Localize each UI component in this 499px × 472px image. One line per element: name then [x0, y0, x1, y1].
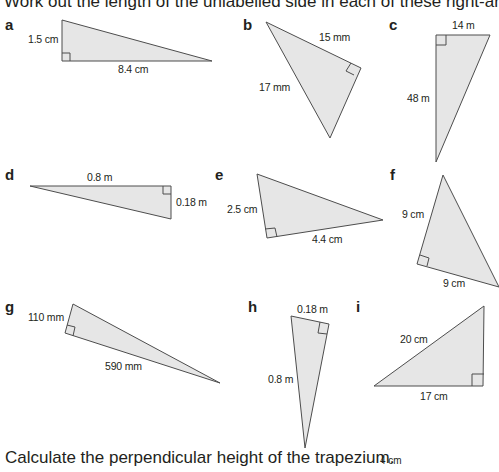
- trapezium-question: Calculate the perpendicular height of th…: [5, 448, 394, 468]
- part-label-d: d: [5, 166, 14, 183]
- side-label-e-2: 4.4 cm: [312, 233, 342, 245]
- side-label-b-1: 15 mm: [319, 31, 350, 43]
- triangle-g-shape: [65, 304, 220, 383]
- triangle-a-shape: [62, 20, 212, 61]
- side-label-d-2: 0.18 m: [176, 196, 207, 208]
- side-label-h-1: 0.18 m: [297, 303, 328, 315]
- trapezium-dimension-label: 4 cm: [380, 455, 402, 466]
- triangle-d-shape: [30, 186, 171, 219]
- part-label-h: h: [248, 298, 257, 315]
- part-label-g: g: [5, 298, 14, 315]
- triangle-h-shape: [291, 316, 329, 448]
- side-label-c-2: 48 m: [407, 92, 430, 104]
- side-label-a-2: 8.4 cm: [118, 63, 148, 75]
- part-label-c: c: [389, 16, 397, 33]
- side-label-b-2: 17 mm: [259, 81, 290, 93]
- side-label-i-2: 17 cm: [420, 390, 448, 402]
- side-label-e-1: 2.5 cm: [227, 203, 257, 215]
- triangle-c-shape: [436, 35, 490, 162]
- triangle-i-shape: [374, 306, 484, 386]
- triangle-i: [374, 306, 484, 386]
- triangle-e-shape: [257, 174, 383, 238]
- triangle-a: [62, 20, 212, 61]
- side-label-g-2: 590 mm: [105, 360, 142, 372]
- triangle-f: [417, 175, 499, 287]
- side-label-f-1: 9 cm: [402, 208, 424, 220]
- triangle-g: [65, 304, 220, 383]
- part-label-i: i: [356, 298, 360, 315]
- side-label-g-1: 110 mm: [28, 311, 64, 323]
- side-label-a-1: 1.5 cm: [28, 33, 58, 45]
- triangle-d: [30, 186, 171, 219]
- triangle-h: [291, 316, 329, 448]
- side-label-i-1: 20 cm: [400, 333, 428, 345]
- part-label-e: e: [215, 166, 223, 183]
- triangle-f-shape: [417, 175, 499, 287]
- part-label-b: b: [243, 16, 252, 33]
- side-label-c-1: 14 m: [452, 19, 475, 31]
- triangle-c: [436, 35, 490, 162]
- side-label-f-2: 9 cm: [443, 277, 465, 289]
- part-label-f: f: [390, 166, 395, 183]
- triangle-e: [257, 174, 383, 238]
- part-label-a: a: [5, 16, 13, 33]
- side-label-h-2: 0.8 m: [268, 373, 293, 385]
- side-label-d-1: 0.8 m: [87, 171, 112, 183]
